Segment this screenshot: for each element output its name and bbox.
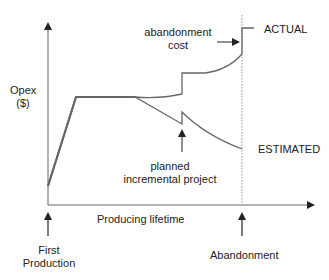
y-axis-label-line2: ($) bbox=[10, 97, 36, 110]
abandonment-label: Abandonment bbox=[210, 249, 276, 262]
abandonment-cost-label: abandonment cost bbox=[140, 26, 216, 52]
first-production-line2: Production bbox=[14, 257, 84, 270]
actual-label: ACTUAL bbox=[264, 23, 307, 36]
abandonment-cost-line1: abandonment bbox=[140, 26, 216, 39]
first-production-label: First Production bbox=[14, 244, 84, 270]
planned-project-line1: planned bbox=[110, 160, 230, 173]
planned-project-label: planned incremental project bbox=[110, 160, 230, 186]
first-production-line1: First bbox=[14, 244, 84, 257]
x-axis-label: Producing lifetime bbox=[97, 213, 184, 226]
planned-project-line2: incremental project bbox=[110, 173, 230, 186]
y-axis-label: Opex ($) bbox=[10, 84, 36, 110]
estimated-label: ESTIMATED bbox=[258, 143, 320, 156]
abandonment-cost-line2: cost bbox=[140, 39, 216, 52]
y-axis-label-line1: Opex bbox=[10, 84, 36, 97]
